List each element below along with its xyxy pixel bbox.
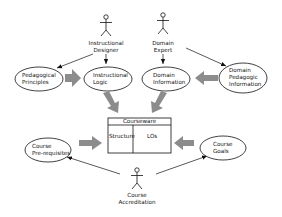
ellipse-label: Principles <box>22 79 49 86</box>
actor-label: Course <box>127 192 147 198</box>
actor-course-accreditation[interactable]: Course Accreditation <box>119 168 156 205</box>
courseware-box[interactable]: Courseware Structure LOs <box>108 118 171 153</box>
ellipse-label: Pre-requisites <box>32 150 70 157</box>
actor-domain-expert[interactable]: Domain Expert <box>152 13 174 54</box>
association-arrows <box>57 48 226 174</box>
ellipse-course-goals[interactable]: Course Goals <box>200 136 246 160</box>
ellipse-label: Information <box>153 79 186 85</box>
ellipse-label: Course <box>213 141 233 147</box>
arrow-designer-to-principles <box>57 54 93 68</box>
stick-figure-icon <box>100 15 112 36</box>
ellipse-label: Pedagogical <box>22 72 56 79</box>
ellipse-label: Logic <box>93 79 108 86</box>
actor-label: Accreditation <box>119 199 156 205</box>
block-arrow-down-right <box>103 91 119 113</box>
ellipse-pedagogical-principles[interactable]: Pedagogical Principles <box>15 67 63 91</box>
courseware-title: Courseware <box>123 118 157 124</box>
ellipse-domain-pedagogic-information[interactable]: Domain Pedagogic Information <box>219 63 267 93</box>
block-arrow-down-left <box>151 91 167 113</box>
block-arrow-right <box>79 136 102 150</box>
arrow-expert-to-pedagogic-info <box>186 48 226 66</box>
ellipse-course-prerequisites[interactable]: Course Pre-requisites <box>25 138 71 162</box>
ellipse-label: Course <box>32 143 52 149</box>
actor-instructional-designer[interactable]: Instructional Designer <box>89 15 124 54</box>
courseware-structure-cell: Structure <box>109 133 136 139</box>
block-arrow-right <box>65 69 81 87</box>
stick-figure-icon <box>131 168 143 189</box>
ellipse-label: Pedagogic <box>229 74 258 81</box>
courseware-los-cell: LOs <box>147 133 157 139</box>
arrow-accreditation-to-goals <box>156 156 207 174</box>
courseware-diagram: Instructional Designer Domain Expert Cou… <box>0 0 282 217</box>
ellipse-label: Domain <box>229 67 251 73</box>
ellipse-instructional-logic[interactable]: Instructional Logic <box>84 67 132 91</box>
actor-label: Designer <box>93 47 119 54</box>
stick-figure-icon <box>157 13 169 34</box>
ellipse-label: Instructional <box>93 72 128 78</box>
actor-label: Expert <box>154 47 173 54</box>
block-arrow-left <box>195 71 218 85</box>
ellipse-label: Domain <box>153 72 175 78</box>
arrow-accreditation-to-prerequisites <box>67 157 120 174</box>
actor-label: Instructional <box>89 40 124 46</box>
block-arrow-left <box>174 136 194 150</box>
ellipse-domain-information[interactable]: Domain Information <box>142 67 190 91</box>
ellipse-label: Goals <box>213 148 229 154</box>
actor-label: Domain <box>152 40 174 46</box>
ellipse-label: Information <box>229 81 262 87</box>
